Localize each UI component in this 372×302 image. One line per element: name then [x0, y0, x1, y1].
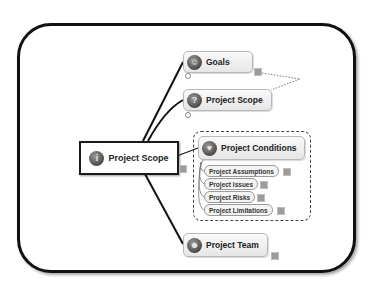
info-icon: i: [89, 151, 104, 166]
topic-project-scope[interactable]: ? Project Scope: [183, 89, 272, 111]
central-topic[interactable]: i Project Scope: [79, 141, 179, 175]
smiley-icon: ☺: [187, 55, 202, 70]
subtopic-label: Project Assumptions: [209, 168, 274, 175]
subtopic-project-assumptions[interactable]: Project Assumptions: [204, 165, 279, 177]
subtopic-project-risks[interactable]: Project Risks: [204, 191, 255, 203]
note-icon[interactable]: [271, 252, 279, 260]
topic-project-team[interactable]: ☻ Project Team: [183, 233, 268, 257]
note-icon[interactable]: [260, 181, 268, 189]
note-icon[interactable]: [277, 207, 285, 215]
note-icon[interactable]: [257, 194, 265, 202]
lightbulb-icon: ♥: [202, 141, 217, 156]
topic-goals[interactable]: ☺ Goals: [183, 51, 253, 73]
subtopic-label: Project Limitations: [209, 207, 268, 214]
subtopic-label: Project Issues: [209, 181, 253, 188]
topic-label: Project Conditions: [221, 143, 297, 153]
question-icon: ?: [187, 93, 202, 108]
subtopic-label: Project Risks: [209, 194, 250, 201]
collapse-toggle[interactable]: [185, 73, 191, 79]
note-icon[interactable]: [254, 68, 262, 76]
topic-label: Goals: [206, 57, 230, 67]
topic-label: Project Scope: [206, 95, 263, 105]
collapse-toggle[interactable]: [185, 112, 191, 118]
note-icon[interactable]: [283, 168, 291, 176]
topic-project-conditions[interactable]: ♥ Project Conditions: [198, 136, 305, 160]
central-topic-label: Project Scope: [108, 153, 168, 163]
subtopic-project-limitations[interactable]: Project Limitations: [204, 204, 273, 216]
team-icon: ☻: [187, 238, 202, 253]
subtopic-project-issues[interactable]: Project Issues: [204, 178, 258, 190]
topic-label: Project Team: [206, 240, 259, 250]
note-icon[interactable]: [179, 165, 187, 173]
